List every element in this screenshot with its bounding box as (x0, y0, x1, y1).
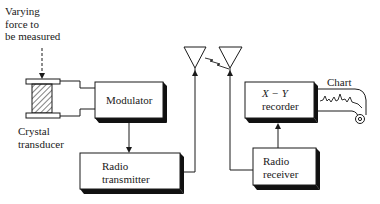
transducer-label-line2: transducer (18, 138, 64, 151)
chart-paper-icon (318, 89, 366, 124)
recorder-label-line1: X − Y (262, 87, 299, 100)
chart-label: Chart (327, 76, 351, 89)
receiver-label: Radio receiver (263, 155, 298, 181)
receiver-label-line2: receiver (263, 168, 298, 181)
recorder-label: X − Y recorder (262, 87, 299, 113)
transmitter-label: Radio transmitter (102, 160, 150, 186)
force-label-line3: be measured (5, 30, 60, 43)
force-label: Varying force to be measured (5, 5, 60, 43)
receive-antenna-icon (219, 47, 242, 68)
transmitter-label-line2: transmitter (102, 173, 150, 186)
modulator-label: Modulator (106, 94, 152, 107)
transducer-label-line1: Crystal (18, 125, 64, 138)
force-label-line1: Varying (5, 5, 60, 18)
transmit-antenna-icon (184, 47, 206, 68)
transmitter-label-line1: Radio (102, 160, 150, 173)
recorder-label-line2: recorder (262, 100, 299, 113)
transducer-label: Crystal transducer (18, 125, 64, 150)
receiver-label-line1: Radio (263, 155, 298, 168)
transducer-wires (60, 81, 95, 116)
force-arrow (39, 48, 45, 79)
crystal-transducer (26, 79, 60, 118)
force-label-line2: force to (5, 18, 60, 31)
transmitter-to-antenna-line (184, 68, 195, 172)
